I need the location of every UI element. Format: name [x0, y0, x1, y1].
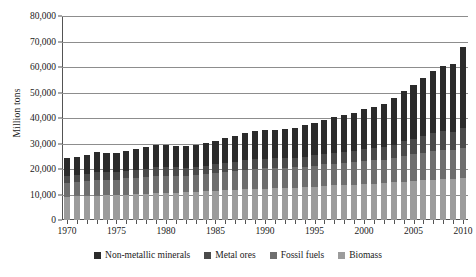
bar-2008[interactable] — [440, 66, 446, 220]
bar-segment-biomass — [173, 193, 179, 220]
legend-item-metal-ores[interactable]: Metal ores — [204, 250, 255, 260]
x-axis-tick-label: 1990 — [243, 226, 287, 236]
bar-1989[interactable] — [252, 131, 258, 220]
bar-segment-metal-ores — [391, 145, 397, 159]
x-axis-tick-label: 2000 — [342, 226, 386, 236]
x-axis-tick-mark — [87, 220, 88, 224]
bar-2006[interactable] — [420, 78, 426, 220]
y-axis-tick-label: 60,000 — [2, 62, 56, 72]
bar-segment-biomass — [460, 178, 466, 220]
bar-segment-biomass — [321, 186, 327, 220]
x-axis-tick-mark — [126, 220, 127, 224]
bar-segment-biomass — [193, 192, 199, 220]
bar-segment-fossil-fuels — [163, 176, 169, 193]
bar-1972[interactable] — [84, 155, 90, 220]
bar-1999[interactable] — [351, 113, 357, 220]
bar-1985[interactable] — [212, 141, 218, 220]
bar-segment-non-metallic-minerals — [222, 138, 228, 163]
legend-item-non-metallic-minerals[interactable]: Non-metallic minerals — [94, 250, 190, 260]
bar-segment-non-metallic-minerals — [282, 129, 288, 158]
bar-1993[interactable] — [292, 128, 298, 220]
bar-1991[interactable] — [272, 130, 278, 220]
bar-segment-biomass — [272, 188, 278, 220]
bar-segment-non-metallic-minerals — [212, 141, 218, 165]
bar-1976[interactable] — [123, 151, 129, 220]
bar-segment-non-metallic-minerals — [302, 125, 308, 156]
bar-segment-fossil-fuels — [460, 148, 466, 178]
bar-segment-fossil-fuels — [321, 164, 327, 186]
bar-2004[interactable] — [401, 91, 407, 220]
legend-item-fossil-fuels[interactable]: Fossil fuels — [270, 250, 325, 260]
bar-2001[interactable] — [371, 107, 377, 220]
bar-1995[interactable] — [311, 123, 317, 220]
bar-segment-metal-ores — [84, 174, 90, 181]
bar-segment-fossil-fuels — [450, 150, 456, 179]
bar-2009[interactable] — [450, 64, 456, 220]
bar-1971[interactable] — [74, 157, 80, 220]
bar-1996[interactable] — [321, 120, 327, 220]
bar-segment-metal-ores — [94, 172, 100, 180]
x-axis-tick-mark — [463, 220, 464, 224]
bar-1978[interactable] — [143, 147, 149, 220]
x-axis-tick-mark — [107, 220, 108, 224]
bar-segment-non-metallic-minerals — [123, 151, 129, 171]
bar-segment-metal-ores — [74, 175, 80, 182]
bar-segment-metal-ores — [133, 170, 139, 178]
bar-segment-fossil-fuels — [212, 173, 218, 191]
chart-legend: Non-metallic mineralsMetal oresFossil fu… — [0, 250, 476, 260]
x-axis-tick-mark — [215, 220, 216, 224]
bar-segment-biomass — [94, 196, 100, 220]
bar-1994[interactable] — [302, 125, 308, 220]
bar-1975[interactable] — [113, 153, 119, 220]
bar-2000[interactable] — [361, 109, 367, 220]
bar-1986[interactable] — [222, 138, 228, 220]
bar-1984[interactable] — [203, 143, 209, 220]
x-axis-tick-mark — [374, 220, 375, 224]
bar-1997[interactable] — [331, 117, 337, 220]
bar-segment-biomass — [232, 190, 238, 220]
bar-1981[interactable] — [173, 146, 179, 220]
bar-2007[interactable] — [430, 71, 436, 220]
legend-item-biomass[interactable]: Biomass — [338, 250, 382, 260]
bar-1983[interactable] — [193, 145, 199, 220]
x-axis-tick-mark — [433, 220, 434, 224]
x-axis-tick-label: 1980 — [144, 226, 188, 236]
bar-segment-non-metallic-minerals — [381, 104, 387, 147]
bar-1982[interactable] — [183, 146, 189, 220]
bar-segment-metal-ores — [262, 159, 268, 169]
bar-2010[interactable] — [460, 47, 466, 220]
bar-segment-metal-ores — [242, 160, 248, 169]
bar-1998[interactable] — [341, 115, 347, 220]
x-axis-tick-mark — [77, 220, 78, 224]
bar-segment-fossil-fuels — [440, 150, 446, 179]
bar-segment-fossil-fuels — [401, 156, 407, 182]
bar-1977[interactable] — [133, 149, 139, 220]
bar-2003[interactable] — [391, 98, 397, 220]
bar-segment-biomass — [123, 195, 129, 220]
x-axis-tick-label: 1975 — [94, 226, 138, 236]
bar-1992[interactable] — [282, 129, 288, 220]
bar-1988[interactable] — [242, 133, 248, 220]
bar-2005[interactable] — [410, 85, 416, 220]
bar-1970[interactable] — [64, 158, 70, 220]
bar-1987[interactable] — [232, 136, 238, 220]
x-axis-tick-mark — [67, 220, 68, 224]
bar-1974[interactable] — [103, 153, 109, 220]
x-axis-tick-mark — [334, 220, 335, 224]
bar-1979[interactable] — [153, 145, 159, 220]
x-axis-tick-mark — [225, 220, 226, 224]
x-axis-tick-mark — [97, 220, 98, 224]
bar-segment-non-metallic-minerals — [460, 47, 466, 128]
bar-1990[interactable] — [262, 130, 268, 220]
x-axis-tick-mark — [344, 220, 345, 224]
bar-segment-fossil-fuels — [222, 172, 228, 190]
bar-segment-fossil-fuels — [381, 160, 387, 183]
bar-segment-metal-ores — [440, 131, 446, 150]
legend-swatch-biomass — [338, 252, 345, 259]
bar-segment-metal-ores — [153, 167, 159, 176]
bar-segment-non-metallic-minerals — [193, 145, 199, 167]
bar-2002[interactable] — [381, 104, 387, 220]
bar-1973[interactable] — [94, 152, 100, 220]
y-axis-tick-label: 40,000 — [2, 113, 56, 123]
bar-1980[interactable] — [163, 145, 169, 220]
